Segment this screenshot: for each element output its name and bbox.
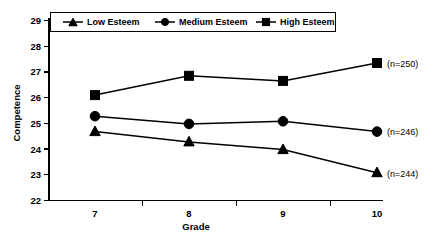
- series-high-esteem: [91, 59, 382, 100]
- x-axis-tick-labels: 7 8 9 10: [92, 208, 382, 219]
- series-high-esteem-line: [95, 63, 377, 95]
- y-axis-title: Competence: [11, 84, 22, 141]
- x-axis-title: Grade: [182, 221, 209, 232]
- annotation-medium-esteem-n: (n=246): [387, 127, 418, 137]
- data-point-high-esteem-grade-10: [373, 59, 382, 68]
- y-axis-tick-labels: 29 28 27 26 25 24 23 22: [30, 15, 41, 206]
- y-tick-label: 23: [30, 169, 41, 180]
- y-tick-label: 22: [30, 195, 41, 206]
- legend-circle-icon: [161, 18, 168, 25]
- x-tick-label: 8: [186, 208, 191, 219]
- y-tick-label: 26: [30, 92, 41, 103]
- x-tick-label: 9: [280, 208, 285, 219]
- data-point-medium-esteem-grade-8: [184, 119, 194, 129]
- competence-by-grade-line-chart: 29 28 27 26 25 24 23 22 7 8 9 10 Grade C…: [0, 0, 440, 241]
- series-low-esteem: [90, 126, 382, 177]
- chart-legend: Low Esteem Medium Esteem High Esteem: [51, 13, 336, 32]
- data-point-high-esteem-grade-7: [91, 91, 100, 100]
- series-low-esteem-line: [95, 132, 377, 173]
- data-point-medium-esteem-grade-10: [372, 127, 382, 137]
- y-tick-label: 25: [30, 118, 41, 129]
- series-medium-esteem-line: [95, 116, 377, 131]
- legend-item-high-esteem[interactable]: High Esteem: [256, 17, 335, 27]
- legend-item-label-high-esteem: High Esteem: [280, 17, 335, 27]
- data-point-high-esteem-grade-8: [185, 71, 194, 80]
- legend-item-label-medium-esteem: Medium Esteem: [179, 17, 248, 27]
- y-tick-label: 29: [30, 15, 41, 26]
- data-point-medium-esteem-grade-9: [278, 117, 288, 127]
- legend-square-icon: [262, 18, 269, 25]
- x-tick-label: 10: [372, 208, 383, 219]
- x-tick-label: 7: [92, 208, 97, 219]
- data-point-low-esteem-grade-7: [90, 126, 100, 136]
- y-tick-label: 27: [30, 66, 41, 77]
- data-point-medium-esteem-grade-7: [90, 111, 100, 121]
- data-point-high-esteem-grade-9: [279, 76, 288, 85]
- series-n-annotations: (n=250) (n=246) (n=244): [387, 59, 418, 179]
- y-tick-label: 24: [30, 144, 41, 155]
- annotation-high-esteem-n: (n=250): [387, 59, 418, 69]
- y-tick-label: 28: [30, 41, 41, 52]
- series-medium-esteem: [90, 111, 382, 136]
- legend-item-label-low-esteem: Low Esteem: [87, 17, 140, 27]
- annotation-low-esteem-n: (n=244): [387, 169, 418, 179]
